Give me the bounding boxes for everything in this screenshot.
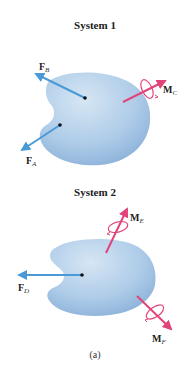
- moment-mf: [137, 296, 171, 329]
- point-d: [80, 273, 84, 277]
- label-fa: FA: [26, 155, 37, 168]
- label-mc: MC: [163, 84, 177, 97]
- label-mf: MF: [152, 333, 166, 346]
- point-b: [83, 96, 87, 100]
- point-a: [58, 123, 62, 127]
- figure-caption: (a): [0, 349, 190, 360]
- system-2: FD ME MF: [18, 209, 171, 346]
- free-body-diagram: FB FA MC FD ME: [0, 0, 190, 376]
- system-1: FB FA MC: [22, 61, 177, 168]
- rigid-body-2: [47, 239, 155, 316]
- label-fd: FD: [18, 282, 29, 295]
- label-me: ME: [130, 212, 144, 225]
- rigid-body-1: [40, 72, 150, 165]
- label-fb: FB: [39, 61, 50, 74]
